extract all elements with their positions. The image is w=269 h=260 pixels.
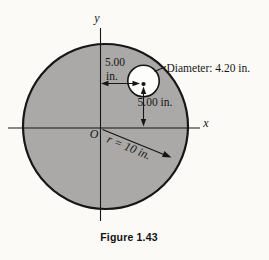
section-diagram: y x 5.00 in. 5.00 in. Diameter: 4.20 in.… [0, 0, 269, 260]
hole-center-dot [141, 82, 145, 86]
horizontal-offset-value: 5.00 [105, 56, 125, 68]
x-axis-label: x [202, 116, 209, 130]
figure-caption: Figure 1.43 [100, 231, 158, 243]
diameter-label: Diameter: 4.20 in. [167, 62, 251, 74]
origin-label: O [90, 127, 99, 141]
figure-1-43: y x 5.00 in. 5.00 in. Diameter: 4.20 in.… [0, 0, 269, 260]
horizontal-offset-unit: in. [106, 70, 118, 82]
vertical-offset-label: 5.00 in. [138, 96, 173, 108]
y-axis-label: y [93, 11, 100, 25]
